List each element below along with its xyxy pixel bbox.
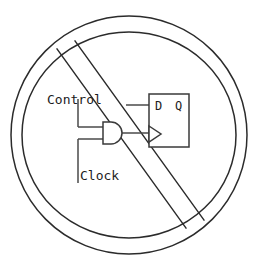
prohibition-circle-inner-icon — [22, 32, 236, 238]
clock-label: Clock — [80, 168, 119, 183]
d-pin-label: D — [155, 99, 162, 113]
prohibition-circle-outer-icon — [11, 16, 247, 254]
prohibited-gated-clock-figure: Control Clock D Q — [0, 0, 262, 271]
and-gate-icon — [103, 122, 122, 144]
figure-root: Control Clock D Q — [0, 0, 262, 271]
q-pin-label: Q — [175, 99, 182, 113]
control-label: Control — [47, 92, 102, 107]
